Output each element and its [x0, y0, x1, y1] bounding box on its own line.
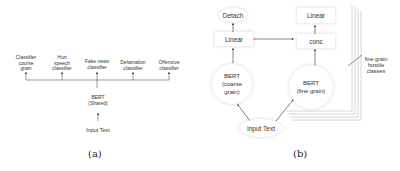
fine-grain-hostile-classes-label: fine grain hostile classes	[362, 56, 390, 74]
caption-a: (a)	[88, 148, 102, 159]
label-line: BERT	[303, 79, 319, 87]
defamation-classifier: Defamation classifier	[116, 60, 150, 71]
label-line: (coarse	[222, 80, 242, 88]
conc-node: conc	[297, 34, 335, 48]
input-text-b: Input Text	[240, 119, 282, 137]
label-line: classifier	[154, 66, 184, 72]
label-line: classifier	[116, 66, 150, 72]
linear-right-node: Linear	[297, 8, 335, 23]
label-line: BERT	[224, 72, 240, 80]
input-text-a: Input Text	[80, 128, 116, 134]
classifier-coarse-grain: Classifier course grain	[12, 55, 40, 72]
bert-coarse-node: BERT (coarse grain)	[212, 64, 252, 104]
detach-node: Detach	[219, 8, 247, 22]
connectors	[0, 0, 400, 171]
caption-b: (b)	[293, 148, 307, 159]
fake-news-classifier: Fake news classifier	[82, 59, 112, 70]
label-line: classifier	[82, 65, 112, 71]
label-line: grain	[12, 66, 40, 72]
label-line: classes	[362, 68, 390, 74]
offensive-classifier: Offensive classifier	[154, 60, 184, 71]
label-line: (fine grain)	[297, 87, 326, 95]
label-line: grain)	[224, 88, 239, 96]
linear-left-node: Linear	[215, 32, 253, 46]
bert-shared: BERT (Shared)	[83, 95, 113, 106]
bert-fine-node: BERT (fine grain)	[289, 65, 333, 109]
hurt-speech-classifier: Hurt speech classifier	[48, 55, 76, 72]
label-line: classifier	[48, 66, 76, 72]
label-line: (Shared)	[83, 101, 113, 107]
